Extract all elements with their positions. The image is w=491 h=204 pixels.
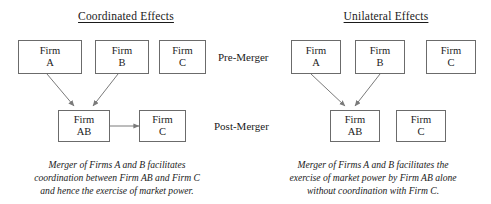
caption-coordinated-effects: Merger of Firms A and B facilitates coor… [8,158,226,198]
right-pre-firm-a-box: Firm A [291,40,341,74]
stage-label-post-merger: Post-Merger [214,120,269,132]
caption-line: and hence the exercise of market power. [8,184,226,197]
caption-line: coordination between Firm AB and Firm C [8,171,226,184]
panel-title-coordinated-effects: Coordinated Effects [52,10,200,22]
caption-line: without coordination with Firm C. [262,184,484,197]
caption-line: exercise of market power by Firm AB alon… [262,171,484,184]
stage-label-pre-merger: Pre-Merger [218,51,269,63]
left-pre-firm-c-box: Firm C [159,40,206,74]
firm-label-word: Firm [74,114,94,126]
firm-label-id: A [46,57,54,69]
firm-label-id: C [179,57,186,69]
right-pre-firm-c-box: Firm C [426,40,476,74]
firm-label-id: A [312,57,320,69]
caption-unilateral-effects: Merger of Firms A and B facilitates the … [262,158,484,198]
firm-label-id: C [447,57,454,69]
connector-right-firm-b-to-firm-ab [355,74,380,106]
firm-label-id: AB [77,126,92,138]
firm-label-word: Firm [345,114,365,126]
firm-label-word: Firm [40,45,60,57]
connector-right-firm-a-to-firm-ab [311,74,345,106]
firm-label-word: Firm [411,114,431,126]
left-post-firm-c-box: Firm C [139,110,186,142]
firm-label-id: B [118,57,125,69]
merger-effects-diagram: Coordinated Effects Unilateral Effects P… [0,0,491,204]
firm-label-word: Firm [441,45,461,57]
connector-left-firm-a-to-firm-ab [47,74,74,106]
firm-label-id: C [417,126,424,138]
panel-title-unilateral-effects: Unilateral Effects [312,10,460,22]
connector-left-firm-b-to-firm-ab [93,74,118,106]
firm-label-word: Firm [370,45,390,57]
firm-label-word: Firm [152,114,172,126]
left-pre-firm-b-box: Firm B [95,40,149,74]
left-post-firm-ab-box: Firm AB [58,110,110,142]
firm-label-id: AB [348,126,363,138]
right-post-firm-c-box: Firm C [396,110,446,142]
firm-label-word: Firm [306,45,326,57]
caption-line: Merger of Firms A and B facilitates [8,158,226,171]
firm-label-word: Firm [112,45,132,57]
caption-line: Merger of Firms A and B facilitates the [262,158,484,171]
firm-label-id: C [159,126,166,138]
left-pre-firm-a-box: Firm A [18,40,82,74]
firm-label-word: Firm [172,45,192,57]
firm-label-id: B [376,57,383,69]
right-pre-firm-b-box: Firm B [355,40,405,74]
right-post-firm-ab-box: Firm AB [330,110,380,142]
